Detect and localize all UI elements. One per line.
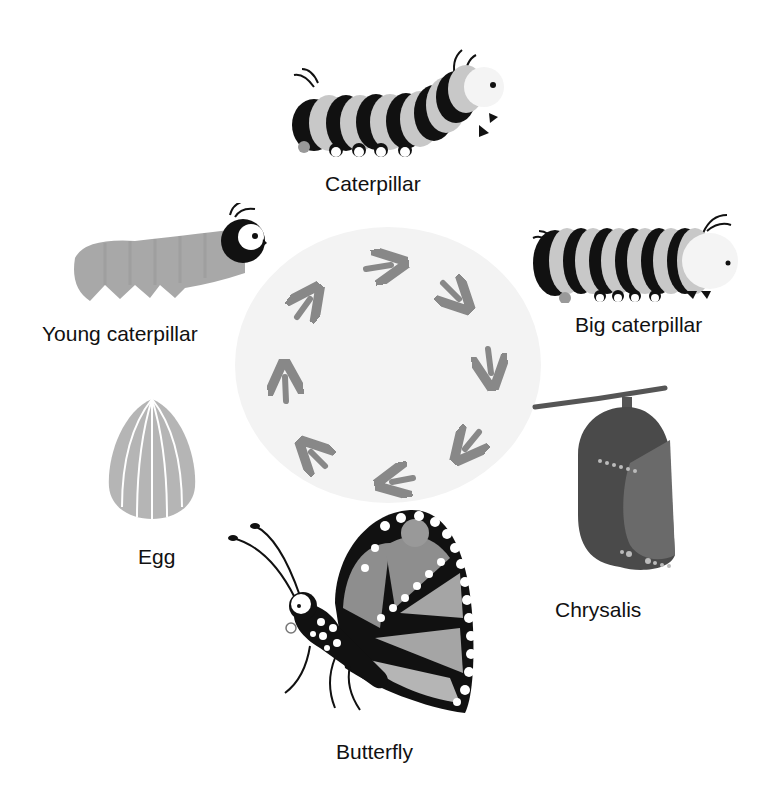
arrow-icon [392,478,413,482]
stage-label-young-caterpillar: Young caterpillar [42,322,198,346]
stage-label-caterpillar: Caterpillar [325,172,421,196]
arrow-icon [285,377,286,401]
chrysalis-illustration [530,385,695,575]
stage-label-chrysalis: Chrysalis [555,598,641,622]
stage-label-butterfly: Butterfly [336,740,413,764]
arrow-icon [488,349,491,373]
egg-illustration [107,397,197,519]
butterfly-illustration [225,498,500,723]
cycle-circle [233,225,543,505]
stage-label-egg: Egg [138,545,175,569]
young-caterpillar-illustration [65,203,270,308]
stage-label-big-caterpillar: Big caterpillar [575,313,702,337]
big-caterpillar-illustration [525,203,740,303]
arrow-icon [366,265,391,269]
caterpillar-illustration [284,45,514,160]
